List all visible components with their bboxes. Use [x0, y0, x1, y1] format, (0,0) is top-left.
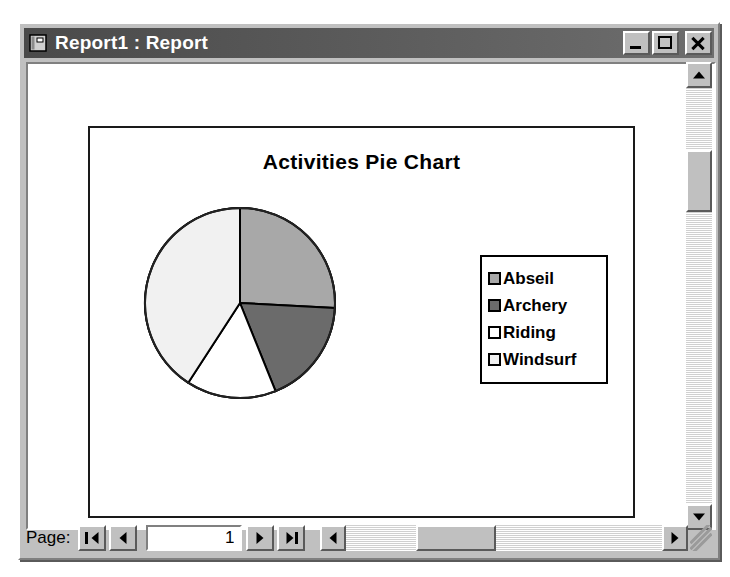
report-window: Report1 : Report Activities Pie Chart: [18, 22, 720, 560]
window-titlebar[interactable]: Report1 : Report: [24, 28, 714, 58]
legend-label-riding: Riding: [503, 324, 556, 341]
window-title: Report1 : Report: [55, 32, 623, 54]
page-label: Page:: [26, 528, 70, 548]
legend-item: Archery: [488, 292, 600, 319]
horizontal-scrollbar-thumb[interactable]: [416, 525, 496, 551]
scroll-up-button[interactable]: [686, 62, 712, 88]
legend-swatch-archery: [488, 299, 501, 312]
legend-swatch-windsurf: [488, 353, 501, 366]
arrow-down-icon: [693, 514, 705, 521]
vertical-scrollbar-thumb[interactable]: [686, 150, 712, 212]
horizontal-scrollbar[interactable]: [320, 525, 688, 551]
arrow-right-icon: [287, 532, 294, 544]
legend-label-abseil: Abseil: [503, 270, 554, 287]
previous-page-button[interactable]: [109, 525, 137, 551]
minimize-button[interactable]: [623, 31, 650, 55]
arrow-left-icon: [92, 532, 99, 544]
legend-swatch-abseil: [488, 272, 501, 285]
close-button[interactable]: [685, 31, 712, 55]
bar-icon: [295, 532, 298, 544]
chart-legend: Abseil Archery Riding Windsurf: [480, 255, 608, 384]
first-page-button[interactable]: [78, 525, 106, 551]
scroll-right-button[interactable]: [662, 525, 688, 551]
vertical-scrollbar[interactable]: [686, 62, 712, 530]
legend-item: Abseil: [488, 265, 600, 292]
report-preview-area[interactable]: Activities Pie Chart Abseil Archery: [26, 62, 716, 530]
pie-slice-abseil: [240, 208, 335, 308]
maximize-icon: [658, 36, 672, 49]
legend-swatch-riding: [488, 326, 501, 339]
arrow-right-icon: [257, 532, 264, 544]
page-navigation-bar: Page:: [26, 524, 712, 552]
scroll-left-button[interactable]: [320, 525, 346, 551]
legend-label-windsurf: Windsurf: [503, 351, 577, 368]
arrow-left-icon: [330, 532, 337, 544]
report-document-icon: [28, 33, 48, 53]
next-page-button[interactable]: [246, 525, 274, 551]
last-page-button[interactable]: [277, 525, 305, 551]
legend-item: Riding: [488, 319, 600, 346]
pie-chart-svg: [141, 204, 339, 402]
arrow-up-icon: [693, 72, 705, 79]
arrow-left-icon: [120, 532, 127, 544]
bar-icon: [85, 532, 88, 544]
maximize-button[interactable]: [652, 31, 679, 55]
chart-title: Activities Pie Chart: [90, 150, 633, 174]
legend-item: Windsurf: [488, 346, 600, 373]
minimize-icon: [630, 46, 641, 49]
arrow-right-icon: [672, 532, 679, 544]
window-controls: [623, 31, 712, 55]
report-page: Activities Pie Chart Abseil Archery: [88, 126, 635, 518]
legend-label-archery: Archery: [503, 297, 567, 314]
pie-chart: [141, 204, 339, 402]
resize-grip[interactable]: [690, 525, 712, 551]
page-number-input[interactable]: [146, 525, 242, 551]
